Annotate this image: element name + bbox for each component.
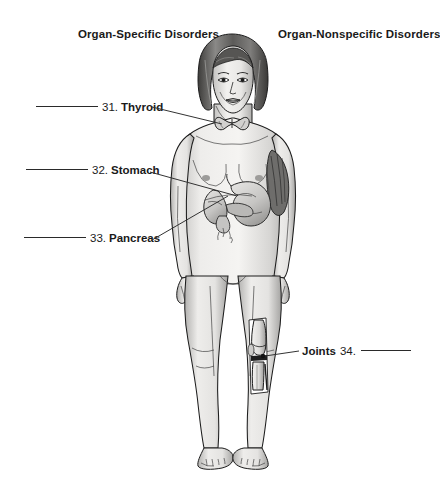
- thyroid-gland-highlight: [215, 117, 249, 129]
- autoimmune-disorders-figure: Organ-Specific Disorders Organ-Nonspecif…: [0, 0, 440, 489]
- left-leg: [185, 276, 233, 469]
- knee-joint-highlight: [248, 318, 268, 394]
- human-figure-illustration: [0, 0, 440, 489]
- head: [198, 34, 268, 113]
